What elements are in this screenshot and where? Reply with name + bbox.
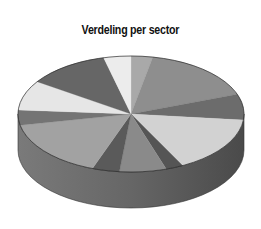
pie-chart-3d (0, 0, 261, 229)
pie-top (18, 56, 244, 172)
